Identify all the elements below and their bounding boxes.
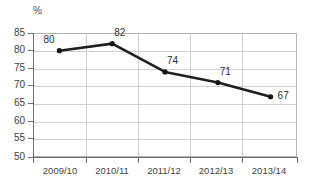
y-axis-tick-55 [28, 138, 34, 139]
gridline-vertical-2 [138, 34, 139, 156]
data-label-0: 80 [43, 35, 54, 45]
gridline-horizontal-65 [34, 104, 296, 105]
gridline-horizontal-75 [34, 69, 296, 70]
y-axis-tick-60 [28, 121, 34, 122]
x-axis-tick-0 [33, 157, 34, 163]
data-label-4: 67 [278, 91, 289, 101]
y-axis-label-75: 75 [1, 63, 25, 73]
x-axis-tick-1 [86, 157, 87, 163]
x-axis-label-2011-12: 2011/12 [147, 166, 181, 176]
gridline-horizontal-55 [34, 139, 296, 140]
y-axis-tick-70 [28, 85, 34, 86]
line-chart: % 85 80 75 70 65 60 55 50 2009/10 201 [0, 0, 310, 189]
y-axis-label-65: 65 [1, 98, 25, 108]
gridline-vertical-3 [190, 34, 191, 156]
y-axis-label-85: 85 [1, 28, 25, 38]
x-axis-tick-4 [242, 157, 243, 163]
gridline-vertical-4 [242, 34, 243, 156]
gridline-horizontal-70 [34, 86, 296, 87]
data-label-2: 74 [167, 56, 178, 66]
y-axis-line [33, 33, 34, 158]
y-axis-labels: 85 80 75 70 65 60 55 50 [0, 0, 25, 189]
x-axis-label-2009-10: 2009/10 [43, 166, 77, 176]
y-axis-tick-65 [28, 103, 34, 104]
y-axis-label-50: 50 [1, 152, 25, 162]
y-axis-tick-80 [28, 50, 34, 51]
x-axis-label-2010-11: 2010/11 [95, 166, 129, 176]
y-axis-label-70: 70 [1, 80, 25, 90]
x-axis-label-2012-13: 2012/13 [199, 166, 233, 176]
gridline-horizontal-80 [34, 51, 296, 52]
y-axis-label-60: 60 [1, 116, 25, 126]
y-axis-label-55: 55 [1, 133, 25, 143]
y-axis-tick-75 [28, 68, 34, 69]
data-label-3: 71 [220, 67, 231, 77]
x-axis-tick-5 [297, 157, 298, 163]
x-axis-line [33, 157, 298, 158]
x-axis-tick-3 [190, 157, 191, 163]
data-label-1: 82 [114, 28, 125, 38]
y-axis-label-80: 80 [1, 45, 25, 55]
plot-area [33, 33, 297, 157]
gridline-horizontal-60 [34, 122, 296, 123]
y-axis-unit-label: % [33, 6, 42, 16]
y-axis-tick-85 [28, 33, 34, 34]
gridline-vertical-1 [86, 34, 87, 156]
x-axis-label-2013-14: 2013/14 [252, 166, 286, 176]
x-axis-tick-2 [138, 157, 139, 163]
